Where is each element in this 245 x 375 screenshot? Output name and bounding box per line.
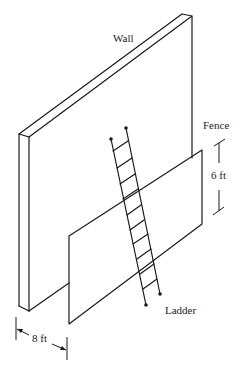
ladder-top-left-dot [109,137,113,141]
wall-label: Wall [113,33,134,44]
wall-top-edge [19,14,192,137]
ladder-label: Ladder [165,305,196,316]
fence-label: Fence [203,120,229,131]
distance-label: 8 ft [32,333,47,344]
ladder-top-right-dot [124,126,128,130]
ladder-rungs [113,141,157,289]
wall-bottom-thickness [19,306,29,311]
fence-height-label: 6 ft [211,170,226,181]
wall [19,14,192,311]
ladder-bottom-left-dot [144,303,148,307]
ladder-diagram [0,0,245,375]
ladder-bottom-right-dot [158,292,162,296]
ladder-end-dots [109,126,162,307]
wall-base-line [29,283,69,311]
ladder [111,128,160,305]
